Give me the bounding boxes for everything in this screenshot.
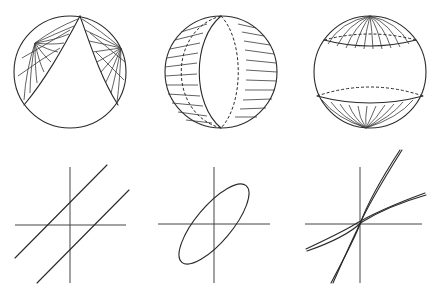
lune-right-edge-hidden — [221, 16, 238, 128]
figure-canvas — [0, 0, 442, 298]
sphere-outline — [314, 16, 426, 128]
sphere-hyperbolic — [314, 16, 426, 128]
bottom-cap-meridians — [322, 100, 413, 128]
bottom-cap-hidden-edge — [317, 87, 423, 96]
bottom-cap-front-edge — [317, 96, 423, 103]
hidden-meridian-left — [181, 16, 221, 128]
sphere-outline — [165, 16, 277, 128]
line-upper — [15, 165, 107, 258]
conic-ellipse — [158, 167, 270, 283]
hatching-right — [235, 24, 277, 117]
steep-branch-b — [333, 150, 402, 283]
line-lower — [37, 190, 129, 283]
hatching-left — [18, 19, 78, 100]
top-cap-hidden-edge — [324, 34, 416, 40]
hatching-right — [82, 19, 125, 102]
shallow-branch-b — [307, 195, 426, 251]
conic-parallel-lines — [15, 165, 129, 283]
sphere-elliptic — [165, 16, 277, 128]
sphere-parabolic — [14, 16, 126, 128]
conic-hyperbola — [305, 150, 426, 283]
